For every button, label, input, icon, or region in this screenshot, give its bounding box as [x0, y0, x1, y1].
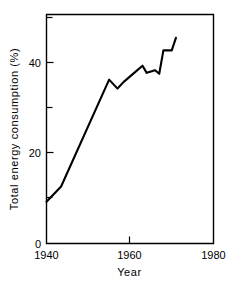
- y-tick-label-20: 20: [29, 147, 41, 159]
- line-chart: 40 20 0 1940 1960 1980 Year Total energy…: [0, 0, 247, 283]
- y-axis-title: Total energy consumption (%): [8, 48, 20, 210]
- x-tick-label-1940: 1940: [34, 249, 58, 261]
- x-tick-label-1980: 1980: [201, 249, 225, 261]
- chart-figure: 40 20 0 1940 1960 1980 Year Total energy…: [0, 0, 247, 283]
- y-tick-label-40: 40: [29, 57, 41, 69]
- x-axis-title: Year: [117, 266, 142, 278]
- y-tick-label-0: 0: [35, 238, 41, 250]
- x-tick-label-1960: 1960: [117, 249, 141, 261]
- y-axis-minor-ticks: [47, 18, 53, 198]
- plot-frame: [47, 15, 214, 244]
- energy-consumption-line: [47, 38, 176, 202]
